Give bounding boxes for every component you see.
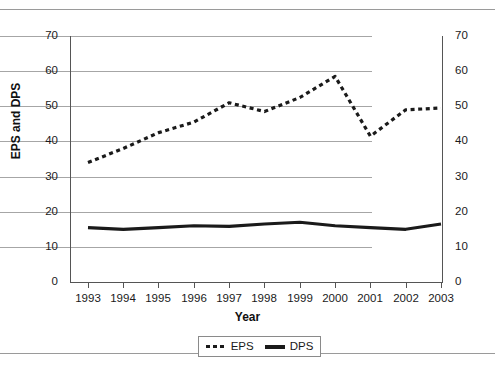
x-tick-2000 bbox=[335, 283, 336, 288]
x-tick-2001 bbox=[370, 283, 371, 288]
x-tick-1995 bbox=[158, 283, 159, 288]
chart-legend: EPS DPS bbox=[198, 336, 321, 357]
y-label-left-40: 40 bbox=[45, 135, 58, 147]
page-top-rule bbox=[0, 9, 495, 10]
page-canvas: 70 60 50 40 30 20 10 0 70 60 50 40 30 20… bbox=[0, 0, 495, 369]
legend-item-dps: DPS bbox=[265, 341, 314, 353]
legend-item-eps: EPS bbox=[206, 341, 254, 353]
y-label-right-50: 50 bbox=[455, 100, 468, 112]
y-label-right-0: 0 bbox=[455, 276, 461, 288]
x-tick-1993 bbox=[88, 283, 89, 288]
y-label-left-20: 20 bbox=[45, 206, 58, 218]
y-label-right-10: 10 bbox=[455, 241, 468, 253]
x-axis-line bbox=[70, 282, 443, 283]
dotted-line-swatch-icon bbox=[206, 345, 226, 348]
legend-label-dps: DPS bbox=[290, 341, 314, 353]
x-tick-1996 bbox=[194, 283, 195, 288]
y-label-right-60: 60 bbox=[455, 65, 468, 77]
x-axis-title: Year bbox=[0, 310, 495, 324]
x-tick-1997 bbox=[229, 283, 230, 288]
y-label-right-70: 70 bbox=[455, 30, 468, 42]
y-label-right-40: 40 bbox=[455, 135, 468, 147]
y-label-right-30: 30 bbox=[455, 171, 468, 183]
legend-label-eps: EPS bbox=[231, 341, 254, 353]
y-label-left-70: 70 bbox=[45, 30, 58, 42]
y-axis-right-line bbox=[442, 36, 443, 283]
x-tick-1999 bbox=[300, 283, 301, 288]
x-label-2003: 2003 bbox=[418, 292, 464, 304]
chart-figure: 70 60 50 40 30 20 10 0 70 60 50 40 30 20… bbox=[0, 14, 495, 350]
x-tick-2002 bbox=[406, 283, 407, 288]
series-line-eps bbox=[88, 76, 441, 162]
plot-area bbox=[70, 36, 442, 282]
y-label-left-50: 50 bbox=[45, 100, 58, 112]
solid-line-swatch-icon bbox=[265, 345, 285, 349]
x-tick-1994 bbox=[123, 283, 124, 288]
y-label-left-0: 0 bbox=[52, 276, 58, 288]
x-tick-2003 bbox=[441, 283, 442, 288]
y-label-right-20: 20 bbox=[455, 206, 468, 218]
series-line-dps bbox=[88, 222, 441, 229]
y-label-left-30: 30 bbox=[45, 171, 58, 183]
y-label-left-60: 60 bbox=[45, 65, 58, 77]
y-axis-title: EPS and DPS bbox=[9, 61, 23, 181]
x-tick-1998 bbox=[264, 283, 265, 288]
y-label-left-10: 10 bbox=[45, 241, 58, 253]
